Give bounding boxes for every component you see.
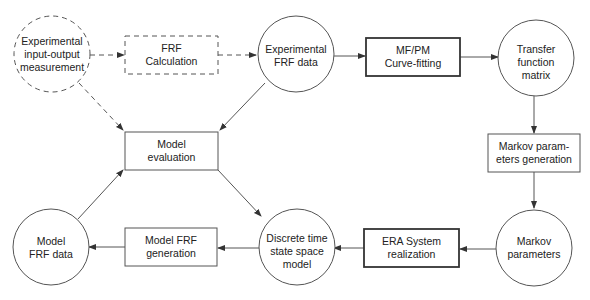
node-label-line: generation bbox=[146, 247, 196, 259]
node-frf-calculation: FRF Calculation bbox=[125, 36, 218, 74]
node-label-line: state space bbox=[270, 245, 324, 257]
node-label-line: Experimental bbox=[265, 43, 326, 55]
node-label-line: MF/PM bbox=[396, 44, 430, 56]
node-label-line: FRF bbox=[161, 42, 181, 54]
node-label-line: function bbox=[518, 56, 555, 68]
node-label-line: input-output bbox=[24, 48, 80, 60]
edge-modeleval-to-dtss bbox=[218, 170, 261, 216]
node-label-line: Markov param- bbox=[499, 140, 570, 152]
node-label-line: FRF data bbox=[29, 248, 73, 260]
node-label-line: Curve-fitting bbox=[385, 57, 442, 69]
node-label-line: Calculation bbox=[146, 55, 198, 67]
node-label-line: Model FRF bbox=[145, 234, 197, 246]
node-mfpm-curve-fitting: MF/PM Curve-fitting bbox=[366, 38, 460, 76]
node-transfer-function-matrix: Transfer function matrix bbox=[498, 20, 574, 96]
node-label-line: Markov bbox=[517, 235, 552, 247]
node-label-line: matrix bbox=[522, 69, 551, 81]
node-era-system-realization: ERA System realization bbox=[364, 229, 459, 267]
node-label-line: model bbox=[283, 258, 312, 270]
edge-modelfrfdata-to-modeleval bbox=[78, 170, 123, 219]
node-label-line: Model bbox=[157, 138, 186, 150]
node-label-line: measurement bbox=[20, 61, 84, 73]
node-label-line: Model bbox=[37, 235, 66, 247]
node-model-frf-generation: Model FRF generation bbox=[125, 228, 217, 266]
node-markov-parameters-generation: Markov param- eters generation bbox=[488, 134, 580, 172]
node-label-line: Transfer bbox=[517, 43, 556, 55]
node-label-line: Experimental bbox=[21, 35, 82, 47]
node-discrete-time-state-space-model: Discrete time state space model bbox=[259, 209, 335, 285]
node-label-line: eters generation bbox=[496, 153, 572, 165]
node-model-frf-data: Model FRF data bbox=[13, 209, 89, 285]
node-experimental-frf-data: Experimental FRF data bbox=[258, 16, 334, 92]
node-experimental-io-measurement: Experimental input-output measurement bbox=[14, 16, 90, 92]
node-label-line: FRF data bbox=[274, 56, 318, 68]
node-label-line: realization bbox=[388, 248, 436, 260]
flowchart-canvas: Experimental input-output measurement FR… bbox=[0, 0, 590, 300]
edge-expio-to-modeleval bbox=[79, 83, 123, 130]
node-label-line: ERA System bbox=[382, 235, 441, 247]
node-label-line: evaluation bbox=[148, 151, 196, 163]
node-model-evaluation: Model evaluation bbox=[125, 132, 218, 170]
node-label-line: Discrete time bbox=[266, 232, 327, 244]
edge-expfrf-to-modeleval bbox=[220, 83, 265, 130]
node-label-line: parameters bbox=[507, 248, 560, 260]
node-markov-parameters: Markov parameters bbox=[496, 210, 572, 286]
